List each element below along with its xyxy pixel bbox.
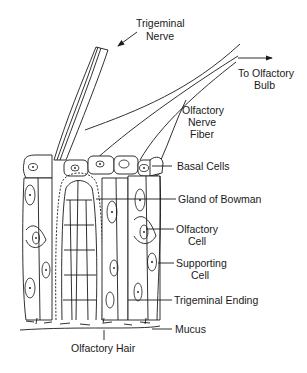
label-trigeminal-nerve: Trigeminal Nerve bbox=[118, 17, 185, 46]
label-to-olfactory-bulb-line2: Bulb bbox=[254, 79, 275, 91]
columnar-cells bbox=[23, 173, 161, 320]
basal-cell-row bbox=[23, 155, 163, 178]
arrow-icon bbox=[118, 32, 137, 46]
label-olfactory-cell-line1: Olfactory bbox=[176, 223, 219, 235]
gland-of-bowman bbox=[56, 173, 103, 320]
label-olfactory-nerve-fiber-line2: Nerve bbox=[188, 116, 216, 128]
label-supporting-cell: Supporting Cell bbox=[176, 257, 227, 281]
label-mucus: Mucus bbox=[175, 323, 206, 335]
label-trigeminal-ending: Trigeminal Ending bbox=[174, 294, 258, 306]
olfactory-nerve-fibers bbox=[85, 44, 272, 162]
trigeminal-nerve-bundle bbox=[54, 47, 108, 160]
label-olfactory-nerve-fiber-line3: Fiber bbox=[190, 128, 214, 140]
label-olfactory-nerve-fiber: Olfactory Nerve Fiber bbox=[182, 104, 225, 140]
label-olfactory-cell: Olfactory Cell bbox=[176, 223, 219, 247]
label-olfactory-hair: Olfactory Hair bbox=[71, 342, 136, 354]
label-trigeminal-nerve-line2: Nerve bbox=[146, 30, 174, 42]
label-to-olfactory-bulb: To Olfactory Bulb bbox=[238, 67, 295, 91]
label-gland-of-bowman: Gland of Bowman bbox=[178, 193, 262, 205]
label-trigeminal-nerve-line1: Trigeminal bbox=[136, 17, 185, 29]
label-olfactory-nerve-fiber-line1: Olfactory bbox=[182, 104, 225, 116]
label-to-olfactory-bulb-line1: To Olfactory bbox=[238, 67, 295, 79]
label-olfactory-cell-line2: Cell bbox=[188, 235, 206, 247]
olfactory-epithelium-diagram: Trigeminal Nerve To Olfactory Bulb Olfac… bbox=[0, 0, 307, 373]
label-supporting-cell-line2: Cell bbox=[191, 269, 209, 281]
label-supporting-cell-line1: Supporting bbox=[176, 257, 227, 269]
epithelium-tissue bbox=[20, 155, 163, 330]
label-basal-cells: Basal Cells bbox=[177, 160, 230, 172]
